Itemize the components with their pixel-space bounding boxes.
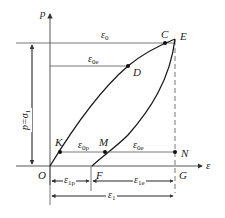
pressure-label: p=σ1 [20, 108, 32, 132]
point-C [163, 41, 167, 45]
x-axis-label: ε [206, 160, 210, 171]
point-D [126, 64, 130, 68]
origin-label: O [38, 170, 46, 181]
eps0p-label: ε0p [78, 140, 89, 152]
eps0-label: ε0 [101, 30, 108, 42]
point-G-label: G [179, 170, 187, 181]
point-F-label: F [96, 170, 103, 181]
point-M [103, 150, 107, 154]
point-M-label: M [99, 137, 108, 148]
point-N [173, 150, 177, 154]
point-C-label: C [161, 29, 168, 40]
point-E-label: E [180, 31, 187, 42]
eps1-label: ε1 [106, 190, 117, 202]
point-K-label: K [55, 137, 62, 148]
eps0e-bottom-label: ε0e [133, 140, 144, 152]
point-D-label: D [133, 67, 141, 78]
stress-strain-diagram [0, 0, 225, 218]
y-axis-label: p [40, 8, 46, 19]
eps0e-top-label: ε0e [88, 54, 99, 66]
eps1p-label: ε1p [63, 175, 76, 187]
eps1e-label: ε1e [133, 175, 146, 187]
point-N-label: N [181, 148, 188, 159]
point-K [58, 150, 62, 154]
loading-curve [50, 39, 175, 166]
